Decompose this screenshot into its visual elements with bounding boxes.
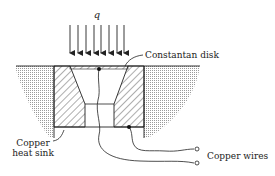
copper-wires-label: Copper wires bbox=[207, 151, 269, 161]
heat-flux-label: q bbox=[94, 9, 100, 20]
constantan-disk-label: Constantan disk bbox=[145, 50, 219, 60]
copper-heat-sink-label-line1: Copper bbox=[16, 138, 50, 148]
surrounding-material-right bbox=[144, 66, 200, 138]
heat-flux-arrows bbox=[70, 25, 124, 53]
surrounding-material-left bbox=[16, 66, 54, 138]
heat-sink-leader-line bbox=[53, 130, 64, 141]
wire-terminal-icon bbox=[195, 161, 199, 165]
constantan-leader-line bbox=[125, 55, 143, 66]
wire-terminal-icon bbox=[195, 147, 199, 151]
edge-junction-dot bbox=[127, 125, 131, 129]
copper-heat-sink-left bbox=[54, 66, 85, 127]
copper-heat-sink-right bbox=[114, 66, 144, 127]
heat-flux-gauge-diagram: q Constantan disk Copper heat sink Coppe… bbox=[0, 0, 275, 176]
center-junction-dot bbox=[97, 67, 101, 71]
edge-wire bbox=[129, 127, 194, 151]
copper-heat-sink-label-line2: heat sink bbox=[12, 148, 54, 158]
